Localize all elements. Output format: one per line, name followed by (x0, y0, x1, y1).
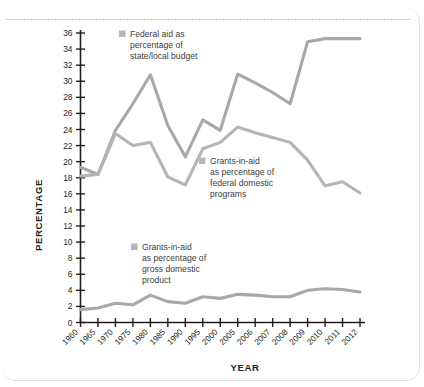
legend-federal-domestic: Grants-in-aid as percentage of federal d… (199, 156, 275, 199)
legend-federal-aid-line-2: state/local budget (130, 51, 198, 61)
x-axis-tick-label: 1980 (131, 327, 151, 347)
legend-federal-aid-line-0: Federal aid as (130, 29, 184, 39)
legend-federal-aid: Federal aid as percentage of state/local… (119, 29, 198, 61)
legend-swatch-icon (199, 158, 206, 165)
x-axis-tick-label: 2009 (288, 327, 308, 347)
legend-federal-domestic-line-2: federal domestic (210, 178, 274, 188)
y-axis-tick-label: 20 (63, 157, 73, 167)
y-axis-tick-label: 28 (63, 92, 73, 102)
x-axis-tick-label: 2008 (270, 327, 290, 347)
y-axis-tick-label: 26 (63, 108, 73, 118)
legend-swatch-icon (131, 244, 138, 251)
y-axis-tick-label: 36 (63, 28, 73, 38)
legend-gdp-line-1: as percentage of (142, 253, 207, 263)
legend-gdp-line-3: product (142, 275, 171, 285)
y-axis-tick-label: 10 (63, 237, 73, 247)
x-axis-tick-label: 2006 (235, 327, 255, 347)
chart-svg: 024681012141618202224262830323436 196019… (0, 0, 424, 387)
y-axis-tick-label: 30 (63, 76, 73, 86)
y-axis-tick-labels: 024681012141618202224262830323436 (63, 28, 73, 328)
legend-gdp-line-0: Grants-in-aid (142, 242, 192, 252)
x-axis-tick-label: 2005 (218, 327, 238, 347)
x-axis-tick-label: 1985 (148, 327, 168, 347)
series-line-0 (81, 39, 361, 175)
chart-page: 024681012141618202224262830323436 196019… (0, 0, 424, 387)
y-axis-tick-label: 4 (68, 285, 73, 295)
y-axis-tick-label: 22 (63, 141, 73, 151)
y-axis-tick-label: 24 (63, 125, 73, 135)
x-axis-tick-label: 1960 (61, 327, 81, 347)
y-axis-tick-label: 12 (63, 221, 73, 231)
y-axis-tick-label: 32 (63, 60, 73, 70)
y-axis-tick-label: 8 (68, 253, 73, 263)
series-line-2 (81, 289, 361, 310)
y-axis-tick-label: 6 (68, 269, 73, 279)
x-axis-tick-label: 2000 (200, 327, 220, 347)
x-axis-tick-label: 1970 (96, 327, 116, 347)
x-axis-title: YEAR (230, 362, 259, 373)
y-axis-tick-label: 18 (63, 173, 73, 183)
x-axis-tick-label: 2007 (253, 327, 273, 347)
y-axis-tick-label: 14 (63, 205, 73, 215)
x-axis-tick-label: 2012 (340, 327, 360, 347)
x-axis-tick-label: 1995 (183, 327, 203, 347)
line-chart: 024681012141618202224262830323436 196019… (0, 0, 424, 387)
legend-federal-domestic-line-0: Grants-in-aid (210, 156, 260, 166)
legend-federal-domestic-line-3: programs (210, 189, 246, 199)
x-axis-tick-label: 2010 (305, 327, 325, 347)
x-axis-tick-label: 1965 (78, 327, 98, 347)
x-axis-tick-label: 2011 (323, 327, 342, 346)
y-axis-tick-label: 2 (68, 301, 73, 311)
legend-gdp-line-2: gross domestic (142, 264, 200, 274)
x-axis-tick-labels: 1960196519701975198019851990199520002005… (61, 327, 360, 347)
legend-swatch-icon (119, 31, 126, 38)
y-axis-title: PERCENTAGE (33, 179, 44, 251)
legend-federal-domestic-line-1: as percentage of (210, 167, 275, 177)
y-axis-tick-label: 16 (63, 189, 73, 199)
legend-federal-aid-line-1: percentage of (130, 40, 183, 50)
legend-gdp: Grants-in-aid as percentage of gross dom… (131, 242, 207, 285)
x-axis-tick-label: 1975 (113, 327, 133, 347)
x-axis-tick-label: 1990 (165, 327, 185, 347)
y-axis-tick-label: 34 (63, 44, 73, 54)
y-axis-tick-label: 0 (68, 318, 73, 328)
